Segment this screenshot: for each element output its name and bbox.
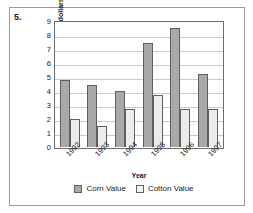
legend-swatch-icon xyxy=(74,185,82,193)
bar-group xyxy=(198,23,218,147)
x-axis-title: Year xyxy=(54,172,224,179)
legend-item: Corn Value xyxy=(74,184,125,193)
bar xyxy=(115,91,125,147)
chart-legend: Corn ValueCotton Value xyxy=(38,184,230,193)
legend-item: Cotton Value xyxy=(136,184,194,193)
y-tick-label: 1 xyxy=(47,130,51,138)
y-tick-label: 9 xyxy=(47,18,51,26)
page-root: 5. Value (in billions of dollars) 012345… xyxy=(0,0,253,213)
bar xyxy=(170,28,180,147)
bar xyxy=(60,80,70,147)
y-tick-label: 7 xyxy=(47,46,51,54)
question-number: 5. xyxy=(14,12,22,22)
bar-group xyxy=(143,23,163,147)
legend-label: Cotton Value xyxy=(148,184,194,193)
bar-group xyxy=(60,23,80,147)
bar xyxy=(87,85,97,147)
y-tick-label: 0 xyxy=(47,144,51,152)
y-tick-label: 4 xyxy=(47,88,51,96)
legend-label: Corn Value xyxy=(86,184,125,193)
bar-group xyxy=(87,23,107,147)
bar-groups xyxy=(56,23,222,147)
bar xyxy=(198,74,208,148)
legend-swatch-icon xyxy=(136,185,144,193)
bar-chart: Value (in billions of dollars) 012345678… xyxy=(24,14,230,200)
bar-group xyxy=(170,23,190,147)
y-tick-label: 3 xyxy=(47,102,51,110)
plot-area xyxy=(54,21,224,149)
y-tick-label: 5 xyxy=(47,74,51,82)
y-tick-label: 2 xyxy=(47,116,51,124)
y-tick-label: 6 xyxy=(47,60,51,68)
y-tick-label: 8 xyxy=(47,32,51,40)
plot-area-wrapper: 0123456789 xyxy=(54,21,224,149)
bar-group xyxy=(115,23,135,147)
bar xyxy=(153,95,163,148)
bar xyxy=(143,43,153,147)
